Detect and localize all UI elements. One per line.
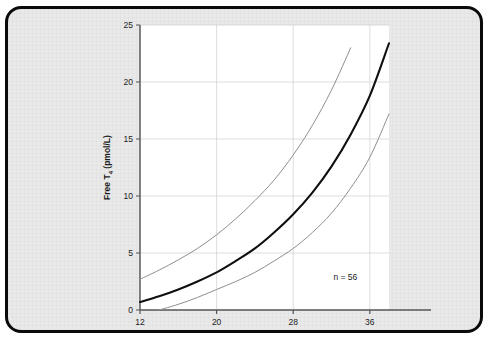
x-tick-label: 28 xyxy=(288,317,298,327)
y-tick-label: 10 xyxy=(124,191,134,201)
y-axis-title-prefix: Free T xyxy=(102,174,112,200)
y-tick-label: 25 xyxy=(124,20,134,30)
free-t4-gestation-chart: 051015202512202836 Gestation (weeks) Fre… xyxy=(8,9,483,333)
x-tick-label: 36 xyxy=(365,317,375,327)
x-tick-label: 20 xyxy=(212,317,222,327)
y-tick-label: 0 xyxy=(128,305,133,315)
x-tick-label: 12 xyxy=(135,317,145,327)
sample-size-annotation: n = 56 xyxy=(333,272,357,282)
svg-text:Free T4 (pmol/L): Free T4 (pmol/L) xyxy=(102,135,114,200)
y-tick-label: 15 xyxy=(124,134,134,144)
figure-card: 051015202512202836 Gestation (weeks) Fre… xyxy=(5,6,483,333)
y-axis-title-suffix: (pmol/L) xyxy=(102,135,112,171)
chart-container: 051015202512202836 Gestation (weeks) Fre… xyxy=(8,9,483,333)
y-tick-label: 20 xyxy=(124,77,134,87)
y-axis-title: Free T4 (pmol/L) xyxy=(102,135,114,200)
y-tick-label: 5 xyxy=(128,248,133,258)
